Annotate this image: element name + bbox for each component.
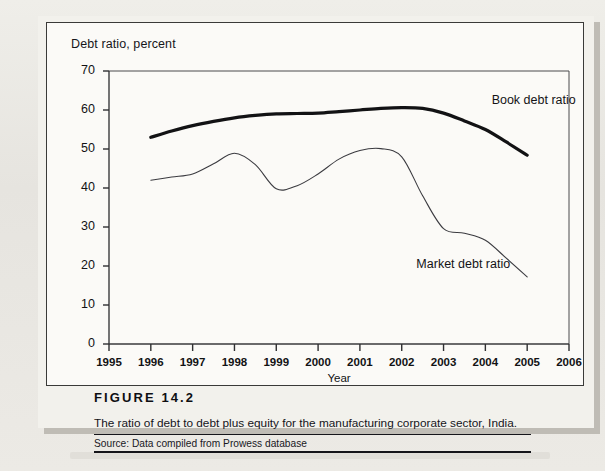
caption-divider-thick <box>94 451 531 453</box>
x-tick-label: 2004 <box>462 356 508 368</box>
figure-card: Debt ratio, percent 01020304050607019951… <box>38 16 594 428</box>
x-tick-label: 2000 <box>295 356 341 368</box>
chart-area: 0102030405060701995199619971998199920002… <box>47 23 585 387</box>
y-tick-label: 40 <box>69 180 95 194</box>
x-tick-label: 1998 <box>211 356 257 368</box>
figure-description: The ratio of debt to debt plus equity fo… <box>94 416 584 430</box>
series-line <box>151 108 527 156</box>
x-tick-label: 2003 <box>421 356 467 368</box>
x-tick-label: 1997 <box>170 356 216 368</box>
plot-panel: Debt ratio, percent 01020304050607019951… <box>46 22 584 386</box>
caption-divider-thin <box>94 434 531 435</box>
x-tick-label: 2005 <box>504 356 550 368</box>
y-tick-label: 70 <box>69 63 95 77</box>
series-layer <box>151 108 527 277</box>
x-tick-label: 1995 <box>86 356 132 368</box>
y-tick-label: 20 <box>69 258 95 272</box>
caption-block: FIGURE 14.2 The ratio of debt to debt pl… <box>46 390 584 453</box>
series-annotation-label: Market debt ratio <box>416 257 510 271</box>
x-tick-label: 2002 <box>379 356 425 368</box>
x-tick-label: 2006 <box>546 356 592 368</box>
y-tick-label: 50 <box>69 141 95 155</box>
y-tick-label: 0 <box>69 336 95 350</box>
figure-source: Source: Data compiled from Prowess datab… <box>94 438 584 449</box>
x-tick-label: 2001 <box>337 356 383 368</box>
y-tick-label: 60 <box>69 102 95 116</box>
x-tick-label: 1996 <box>128 356 174 368</box>
y-tick-label: 10 <box>69 297 95 311</box>
x-axis-title: Year <box>309 372 369 384</box>
x-tick-label: 1999 <box>253 356 299 368</box>
y-tick-label: 30 <box>69 219 95 233</box>
figure-number: FIGURE 14.2 <box>94 390 584 405</box>
series-annotation-label: Book debt ratio <box>492 93 576 107</box>
bleed-mark <box>70 452 550 459</box>
line-chart-svg <box>47 23 585 387</box>
